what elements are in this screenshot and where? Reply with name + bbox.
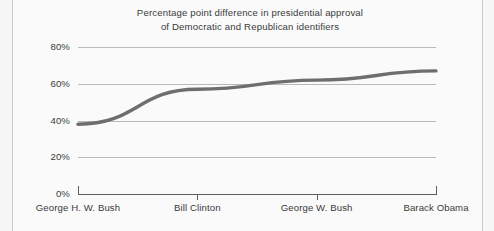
plot-area: 0%20%40%60%80%George H. W. BushBill Clin… bbox=[0, 0, 494, 231]
series-layer bbox=[0, 0, 494, 231]
chart-figure: Percentage point difference in president… bbox=[0, 0, 494, 231]
series-line bbox=[78, 71, 436, 124]
